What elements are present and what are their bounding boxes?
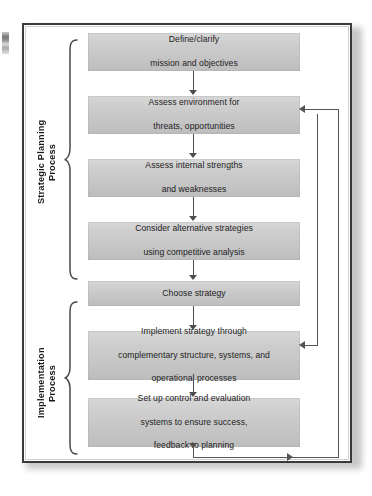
brace-strategic-planning	[63, 38, 79, 281]
group-label-line1: Implementation	[36, 348, 46, 419]
box-line: systems to ensure success,	[138, 417, 251, 429]
box-line: threats, opportunities	[149, 121, 240, 133]
connector-2-3-line	[193, 134, 194, 153]
group-label-line2: Process	[47, 143, 57, 180]
connector-1-2-line	[193, 71, 194, 90]
feedback-inner-riser	[317, 114, 318, 345]
feedback-to-environment-arrowhead	[299, 105, 305, 113]
box-line: and weaknesses	[145, 184, 242, 196]
connector-6-7-line	[193, 380, 194, 392]
process-box-assess-environment[interactable]: Assess environment for threats, opportun…	[88, 96, 300, 134]
box-line: Assess environment for	[149, 97, 240, 109]
box-line: using competitive analysis	[135, 247, 253, 259]
connector-6-7-arrowhead	[189, 392, 197, 397]
box-line: Consider alternative strategies	[135, 223, 253, 235]
box-line: complementary structure, systems, and	[118, 350, 270, 362]
feedback-bottom-arrowhead	[287, 453, 293, 461]
diagram-canvas: Strategic Planning Process Implementatio…	[0, 0, 372, 496]
box-line: Assess internal strengths	[145, 160, 242, 172]
process-box-define-mission[interactable]: Define/clarify mission and objectives	[88, 33, 300, 71]
connector-3-4-line	[193, 197, 194, 216]
group-label-line2: Process	[47, 364, 57, 401]
group-label-strategic-planning: Strategic Planning Process	[36, 107, 60, 217]
box-line: mission and objectives	[150, 58, 238, 70]
connector-1-2-arrowhead	[189, 90, 197, 95]
brace-implementation	[63, 300, 79, 456]
process-box-consider-alternatives[interactable]: Consider alternative strategies using co…	[88, 222, 300, 260]
feedback-outer-riser	[338, 109, 339, 458]
connector-2-3-arrowhead	[189, 153, 197, 158]
page-margin-fragment	[2, 32, 9, 54]
process-box-implement-strategy[interactable]: Implement strategy through complementary…	[88, 331, 300, 380]
process-box-set-up-control[interactable]: Set up control and evaluation systems to…	[88, 398, 300, 447]
process-box-assess-internal[interactable]: Assess internal strengths and weaknesses	[88, 159, 300, 197]
group-label-implementation: Implementation Process	[36, 337, 60, 429]
box-line: Choose strategy	[162, 288, 225, 300]
connector-4-5-line	[193, 260, 194, 275]
box-line: Define/clarify	[150, 34, 238, 46]
feedback-mid-run	[305, 345, 318, 346]
feedback-to-implement-arrowhead	[299, 341, 305, 349]
feedback-top-run	[305, 109, 339, 110]
connector-5-6-arrowhead	[189, 325, 197, 330]
process-box-choose-strategy[interactable]: Choose strategy	[88, 281, 300, 306]
group-label-line1: Strategic Planning	[36, 120, 46, 204]
connector-4-5-arrowhead	[189, 275, 197, 280]
feedback-bottom-run	[193, 457, 339, 458]
connector-5-6-line	[193, 306, 194, 325]
connector-3-4-arrowhead	[189, 216, 197, 221]
